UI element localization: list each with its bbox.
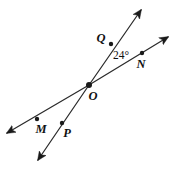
point-dot-M: [35, 117, 39, 121]
point-dot-O: [86, 82, 92, 88]
point-dot-Q: [109, 42, 113, 46]
point-dot-P: [60, 121, 64, 125]
angle-label-24-degrees: 24°: [113, 49, 130, 61]
point-label-P: P: [63, 126, 71, 140]
point-dot-N: [140, 51, 144, 55]
ray-OQ: [89, 10, 141, 85]
geometry-figure-container: Q N M P O 24°: [0, 0, 178, 169]
geometry-figure-canvas: Q N M P O 24°: [0, 0, 178, 169]
point-label-N: N: [135, 57, 146, 71]
ray-OM: [7, 85, 89, 133]
point-label-Q: Q: [96, 31, 105, 45]
point-label-O: O: [88, 89, 97, 103]
point-label-M: M: [34, 122, 47, 136]
